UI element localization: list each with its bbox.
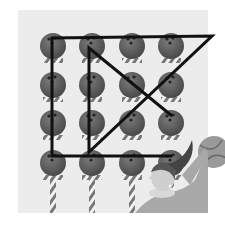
bowling-ball (79, 150, 105, 176)
bowling-ball (119, 110, 145, 136)
pole (89, 178, 95, 213)
pole (129, 178, 135, 213)
pole (50, 178, 56, 213)
puzzle-illustration (0, 0, 225, 252)
bowling-ball (79, 110, 105, 136)
bowling-ball (79, 72, 105, 98)
bowling-ball (119, 150, 145, 176)
